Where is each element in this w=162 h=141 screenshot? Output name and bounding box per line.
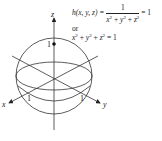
equation: h(x, y, z) = 1 x2 + y2 + z2 = 1: [72, 4, 151, 23]
equation-alt: x2 + y2 + z2 = 1: [72, 33, 117, 42]
y-tick-label: 1: [80, 94, 84, 103]
equation-denominator: x2 + y2 + z2: [106, 14, 139, 24]
x-tick-label: 1: [27, 94, 31, 103]
equation-lhs: h(x, y, z) =: [72, 8, 104, 17]
equation-numerator: 1: [106, 4, 139, 14]
equation-connector: or: [72, 25, 78, 33]
x-axis-label: x: [1, 100, 6, 109]
x-axis: [9, 56, 98, 103]
y-axis-label: y: [102, 100, 107, 109]
z-tick-label: 1: [47, 40, 51, 49]
y-axis: [12, 56, 100, 103]
z-point: [52, 42, 56, 46]
z-axis-label: z: [50, 10, 55, 19]
equation-rhs: = 1: [141, 8, 151, 17]
equation-fraction: 1 x2 + y2 + z2: [106, 4, 139, 23]
